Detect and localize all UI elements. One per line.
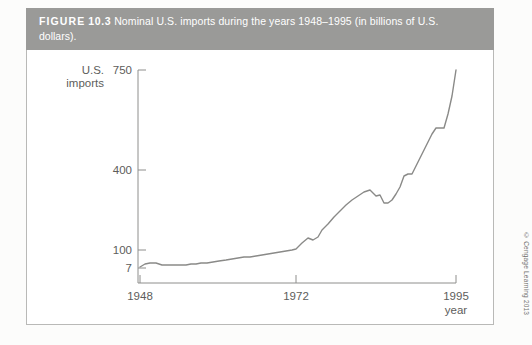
figure-frame	[26, 8, 494, 325]
figure-caption-line-2: dollars).	[39, 29, 482, 43]
copyright-notice: © Cengage Learning 2013	[518, 232, 530, 328]
figure-caption-text: Nominal U.S. imports during the years 19…	[114, 15, 438, 27]
figure-number: 10.3	[88, 15, 111, 27]
figure-label: FIGURE	[39, 15, 85, 27]
figure-caption-bar: FIGURE 10.3 Nominal U.S. imports during …	[26, 8, 494, 50]
figure-caption-line-1: FIGURE 10.3 Nominal U.S. imports during …	[39, 14, 482, 28]
